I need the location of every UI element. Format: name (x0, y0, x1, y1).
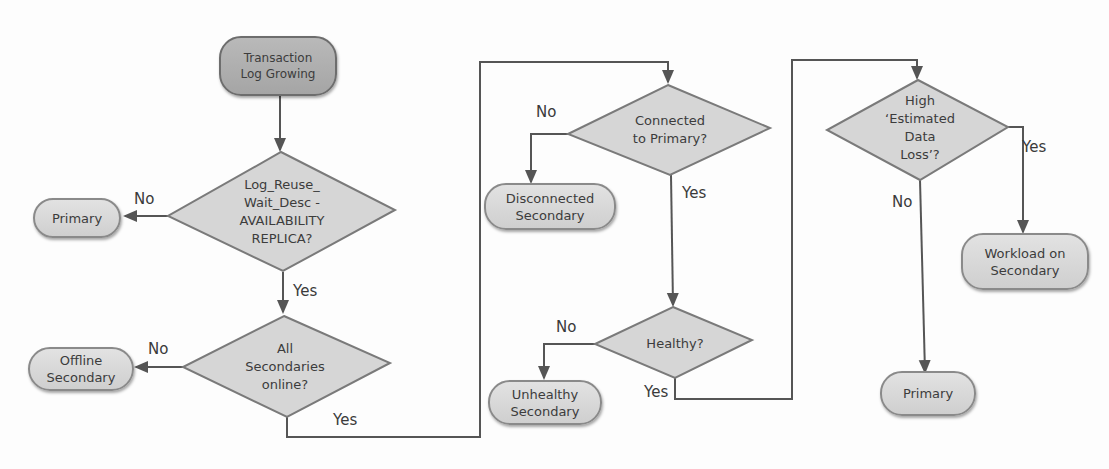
edge-label-yes: Yes (333, 411, 357, 429)
d1-line3: AVAILABILITY (240, 212, 325, 230)
offline-line1: Offline (47, 352, 116, 369)
d1-line4: REPLICA? (240, 230, 325, 248)
start-node-label-line1: Transaction (241, 50, 316, 66)
primary-label: Primary (52, 210, 102, 227)
d5-line4: Loss’? (885, 146, 955, 164)
terminal-primary: Primary (880, 371, 976, 416)
start-node-label-line2: Log Growing (241, 66, 316, 82)
workload-line1: Workload on (984, 245, 1065, 262)
d1-line1: Log_Reuse_ (240, 176, 325, 194)
edge-label-yes: Yes (682, 184, 706, 202)
edge-label-yes: Yes (644, 383, 668, 401)
d2-line2: Secondaries (245, 358, 325, 376)
terminal-primary: Primary (33, 198, 121, 238)
d4-text: Healthy? (646, 335, 703, 353)
d2-line1: All (245, 340, 325, 358)
edge-label-yes: Yes (293, 282, 317, 300)
edge-label-no: No (892, 193, 912, 211)
workload-line2: Secondary (984, 262, 1065, 279)
d3-line2: to Primary? (633, 130, 707, 148)
disconnected-line1: Disconnected (506, 190, 594, 207)
edge-label-yes: Yes (1022, 138, 1046, 156)
flowchart-canvas: Transaction Log Growing Log_Reuse_ Wait_… (0, 0, 1109, 469)
unhealthy-line2: Secondary (511, 403, 580, 420)
offline-line2: Secondary (47, 369, 116, 386)
terminal-workload-on-secondary: Workload on Secondary (961, 233, 1089, 290)
unhealthy-line1: Unhealthy (511, 386, 580, 403)
edge-label-no: No (556, 318, 576, 336)
terminal-disconnected-secondary: Disconnected Secondary (484, 183, 616, 230)
decision-all-secondaries-online-label: All Secondaries online? (220, 330, 350, 404)
disconnected-line2: Secondary (506, 207, 594, 224)
d1-line2: Wait_Desc - (240, 194, 325, 212)
decision-availability-replica-label: Log_Reuse_ Wait_Desc - AVAILABILITY REPL… (196, 160, 368, 264)
edge-label-no: No (536, 103, 556, 121)
d5-line1: High (885, 92, 955, 110)
terminal-offline-secondary: Offline Secondary (28, 347, 134, 391)
decision-estimated-data-loss-label: High ‘Estimated Data Loss’? (860, 86, 980, 170)
d5-line3: Data (885, 128, 955, 146)
d5-line2: ‘Estimated (885, 110, 955, 128)
decision-healthy-label: Healthy? (620, 330, 730, 358)
primary-label: Primary (903, 385, 953, 402)
terminal-unhealthy-secondary: Unhealthy Secondary (488, 380, 602, 425)
edge-label-no: No (148, 340, 168, 358)
d2-line3: online? (245, 376, 325, 394)
start-node-transaction-log-growing: Transaction Log Growing (219, 36, 337, 96)
edge-label-no: No (134, 190, 154, 208)
decision-connected-to-primary-label: Connected to Primary? (600, 100, 740, 160)
d3-line1: Connected (633, 112, 707, 130)
